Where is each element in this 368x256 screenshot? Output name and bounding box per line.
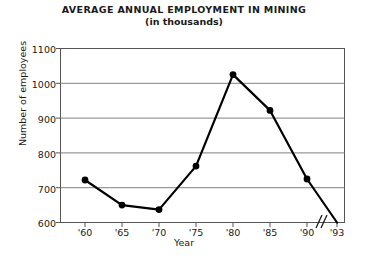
data-point-70 — [156, 206, 163, 213]
axis-break-marks — [316, 215, 327, 228]
chart-plot-area — [0, 0, 368, 256]
data-point-65 — [119, 202, 126, 209]
plot-frame — [61, 49, 345, 223]
data-point-80 — [230, 71, 237, 78]
x-axis-ticks — [85, 223, 337, 228]
data-point-85 — [267, 107, 274, 114]
data-point-75 — [193, 163, 200, 170]
y-axis-ticks — [56, 49, 61, 223]
chart-container: AVERAGE ANNUAL EMPLOYMENT IN MINING (in … — [0, 0, 368, 256]
data-line — [85, 75, 337, 223]
data-point-90 — [304, 176, 311, 183]
gridlines — [61, 83, 345, 187]
data-point-markers — [82, 71, 311, 213]
data-point-60 — [82, 177, 89, 184]
